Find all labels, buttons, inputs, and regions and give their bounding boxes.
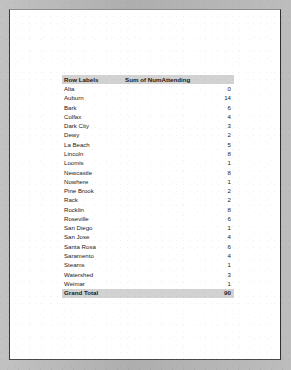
- row-value: 14: [119, 94, 234, 103]
- row-value: 6: [119, 214, 234, 223]
- table-row: Roseville6: [62, 214, 234, 223]
- column-header-row-labels[interactable]: Row Labels: [62, 75, 119, 84]
- table-row: Bark6: [62, 103, 234, 112]
- row-label: Steams: [62, 261, 119, 270]
- table-header: Row Labels Sum of NumAttending: [62, 75, 234, 84]
- row-value: 2: [119, 131, 234, 140]
- row-value: 1: [119, 279, 234, 288]
- grand-total-label: Grand Total: [62, 289, 119, 298]
- row-label: Loomis: [62, 159, 119, 168]
- table-row: Nowhere1: [62, 177, 234, 186]
- grand-total-value: 90: [119, 289, 234, 298]
- table-row: Dark City3: [62, 122, 234, 131]
- row-label: La Beach: [62, 140, 119, 149]
- row-value: 2: [119, 186, 234, 195]
- row-value: 4: [119, 251, 234, 260]
- document-page: Row Labels Sum of NumAttending Alta0Aubu…: [9, 9, 281, 360]
- row-label: Pine Brook: [62, 186, 119, 195]
- table-row: La Beach5: [62, 140, 234, 149]
- row-label: Santa Rosa: [62, 242, 119, 251]
- table-footer: Grand Total 90: [62, 289, 234, 298]
- row-value: 8: [119, 205, 234, 214]
- row-label: Colfax: [62, 112, 119, 121]
- row-label: San Jose: [62, 233, 119, 242]
- table-row: Dewy2: [62, 131, 234, 140]
- table-row: Auburn14: [62, 94, 234, 103]
- row-value: 6: [119, 103, 234, 112]
- row-label: San Diego: [62, 224, 119, 233]
- row-label: Dark City: [62, 122, 119, 131]
- row-label: Watershed: [62, 270, 119, 279]
- table-row: Alta0: [62, 84, 234, 93]
- row-value: 1: [119, 159, 234, 168]
- pivot-table: Row Labels Sum of NumAttending Alta0Aubu…: [62, 75, 234, 298]
- row-value: 3: [119, 270, 234, 279]
- table-row: Newcastle8: [62, 168, 234, 177]
- row-value: 4: [119, 233, 234, 242]
- table-row: Weimar1: [62, 279, 234, 288]
- table-row: Lincoln8: [62, 149, 234, 158]
- table-row: Saramento4: [62, 251, 234, 260]
- table-row: Rocklin8: [62, 205, 234, 214]
- row-value: 3: [119, 122, 234, 131]
- table-row: Colfax4: [62, 112, 234, 121]
- table-header-row: Row Labels Sum of NumAttending: [62, 75, 234, 84]
- column-header-sum-of-numattending[interactable]: Sum of NumAttending: [119, 75, 234, 84]
- row-value: 1: [119, 177, 234, 186]
- table-row: San Diego1: [62, 224, 234, 233]
- row-label: Lincoln: [62, 149, 119, 158]
- row-label: Rack: [62, 196, 119, 205]
- row-label: Weimar: [62, 279, 119, 288]
- row-value: 2: [119, 196, 234, 205]
- row-label: Newcastle: [62, 168, 119, 177]
- row-value: 0: [119, 84, 234, 93]
- table-row: Rack2: [62, 196, 234, 205]
- row-value: 5: [119, 140, 234, 149]
- row-label: Roseville: [62, 214, 119, 223]
- row-label: Nowhere: [62, 177, 119, 186]
- row-label: Bark: [62, 103, 119, 112]
- grand-total-row: Grand Total 90: [62, 289, 234, 298]
- row-label: Dewy: [62, 131, 119, 140]
- table-row: Pine Brook2: [62, 186, 234, 195]
- row-label: Alta: [62, 84, 119, 93]
- table-row: San Jose4: [62, 233, 234, 242]
- table-row: Watershed3: [62, 270, 234, 279]
- row-value: 1: [119, 261, 234, 270]
- table-row: Steams1: [62, 261, 234, 270]
- row-label: Auburn: [62, 94, 119, 103]
- table-row: Santa Rosa6: [62, 242, 234, 251]
- row-value: 6: [119, 242, 234, 251]
- row-label: Saramento: [62, 251, 119, 260]
- row-value: 4: [119, 112, 234, 121]
- scan-background: Row Labels Sum of NumAttending Alta0Aubu…: [0, 0, 291, 370]
- table-body: Alta0Auburn14Bark6Colfax4Dark City3Dewy2…: [62, 84, 234, 288]
- row-value: 8: [119, 149, 234, 158]
- row-value: 1: [119, 224, 234, 233]
- row-label: Rocklin: [62, 205, 119, 214]
- row-value: 8: [119, 168, 234, 177]
- table-row: Loomis1: [62, 159, 234, 168]
